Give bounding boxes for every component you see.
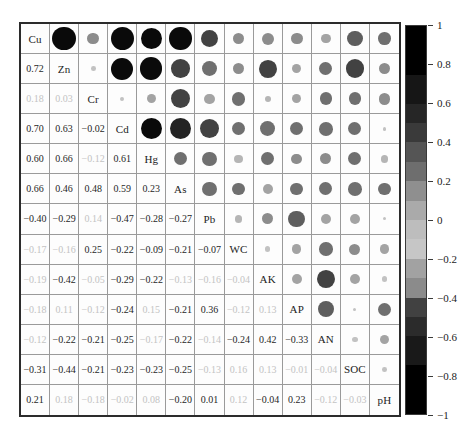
- correlation-value: −0.18: [82, 394, 105, 405]
- coefficient-cell: 0.18: [50, 385, 79, 415]
- correlation-value: −0.24: [111, 304, 134, 315]
- coefficient-cell: −0.23: [137, 355, 166, 385]
- variable-label: Cu: [28, 33, 41, 45]
- correlation-value: −0.02: [111, 394, 134, 405]
- correlation-value: −0.14: [198, 334, 221, 345]
- correlation-value: −0.03: [343, 394, 366, 405]
- circle-cell: [341, 144, 370, 174]
- correlation-value: 0.48: [84, 183, 102, 194]
- correlation-value: −0.33: [285, 334, 308, 345]
- colorbar-tick: [428, 64, 433, 65]
- colorbar: [405, 25, 427, 415]
- coefficient-cell: −0.12: [225, 295, 254, 325]
- correlation-value: −0.09: [140, 244, 163, 255]
- coefficient-cell: −0.21: [79, 325, 108, 355]
- correlation-value: 0.72: [26, 63, 44, 74]
- colorbar-tick: [428, 298, 433, 299]
- coefficient-cell: −0.12: [79, 295, 108, 325]
- correlation-circle: [259, 60, 277, 78]
- circle-cell: [341, 174, 370, 204]
- circle-cell: [166, 114, 195, 144]
- diagonal-cell-Cu: Cu: [21, 24, 50, 54]
- correlation-circle: [353, 308, 356, 311]
- circle-cell: [312, 24, 341, 54]
- variable-label: As: [174, 183, 187, 195]
- coefficient-cell: −0.25: [166, 355, 195, 385]
- circle-cell: [254, 144, 283, 174]
- correlation-value: −0.07: [198, 244, 221, 255]
- coefficient-cell: 0.08: [137, 385, 166, 415]
- correlation-value: −0.16: [198, 274, 221, 285]
- circle-cell: [341, 54, 370, 84]
- coefficient-cell: −0.12: [79, 144, 108, 174]
- circle-cell: [370, 295, 399, 325]
- correlation-circle: [381, 155, 389, 163]
- circle-cell: [370, 54, 399, 84]
- variable-label: SOC: [344, 363, 366, 375]
- coefficient-cell: 0.70: [21, 114, 50, 144]
- correlation-circle: [262, 33, 274, 45]
- coefficient-cell: −0.04: [312, 355, 341, 385]
- circle-cell: [283, 24, 312, 54]
- coefficient-cell: −0.22: [108, 235, 137, 265]
- correlation-circle: [120, 97, 124, 101]
- correlation-circle: [382, 276, 388, 282]
- colorbar-tick-label: 0.6: [437, 97, 451, 109]
- correlation-circle: [261, 152, 274, 165]
- colorbar-tick-label: 0.4: [437, 136, 451, 148]
- circle-cell: [254, 54, 283, 84]
- correlation-value: −0.25: [111, 334, 134, 345]
- coefficient-cell: −0.22: [166, 325, 195, 355]
- coefficient-cell: −0.16: [50, 235, 79, 265]
- colorbar-tick-label: 0: [437, 214, 443, 226]
- colorbar-tick-label: −0.4: [437, 292, 457, 304]
- correlation-value: 0.12: [230, 394, 248, 405]
- correlation-circle: [232, 183, 245, 196]
- circle-cell: [341, 235, 370, 265]
- correlation-matrix: Cu0.72Zn0.180.03Cr0.700.63−0.02Cd0.600.6…: [19, 22, 401, 417]
- correlation-value: −0.29: [111, 274, 134, 285]
- correlation-value: 0.42: [259, 334, 277, 345]
- correlation-circle: [383, 127, 387, 131]
- correlation-value: 0.21: [26, 394, 44, 405]
- circle-cell: [254, 114, 283, 144]
- coefficient-cell: −0.12: [312, 385, 341, 415]
- correlation-circle: [378, 32, 391, 45]
- correlation-circle: [171, 89, 190, 108]
- coefficient-cell: −0.21: [166, 235, 195, 265]
- circle-cell: [283, 204, 312, 234]
- diagonal-cell-Pb: Pb: [195, 204, 224, 234]
- variable-label: AP: [289, 303, 303, 315]
- correlation-circle: [317, 270, 335, 288]
- correlation-circle: [232, 92, 246, 106]
- correlation-value: −0.29: [53, 213, 76, 224]
- correlation-value: −0.12: [227, 304, 250, 315]
- correlation-value: −0.27: [169, 213, 192, 224]
- circle-cell: [108, 54, 137, 84]
- correlation-circle: [290, 122, 303, 135]
- correlation-circle: [292, 94, 302, 104]
- correlation-value: 0.16: [230, 364, 248, 375]
- correlation-circle: [91, 66, 96, 71]
- correlation-circle: [87, 33, 99, 45]
- circle-cell: [312, 235, 341, 265]
- correlation-value: −0.28: [140, 213, 163, 224]
- colorbar-tick: [428, 415, 433, 416]
- coefficient-cell: 0.61: [108, 144, 137, 174]
- correlation-circle: [262, 213, 273, 224]
- colorbar-tick-label: 0.8: [437, 58, 451, 70]
- circle-cell: [312, 114, 341, 144]
- coefficient-cell: −0.44: [50, 355, 79, 385]
- variable-label: WC: [230, 243, 248, 255]
- colorbar-band: [406, 365, 426, 414]
- colorbar-tick: [428, 220, 433, 221]
- correlation-circle: [171, 59, 190, 78]
- colorbar-band: [406, 142, 426, 161]
- circle-cell: [225, 114, 254, 144]
- colorbar-band: [406, 26, 426, 75]
- correlation-circle: [233, 63, 244, 74]
- correlation-value: −0.12: [23, 334, 46, 345]
- colorbar-band: [406, 278, 426, 297]
- coefficient-cell: −0.47: [108, 204, 137, 234]
- circle-cell: [254, 84, 283, 114]
